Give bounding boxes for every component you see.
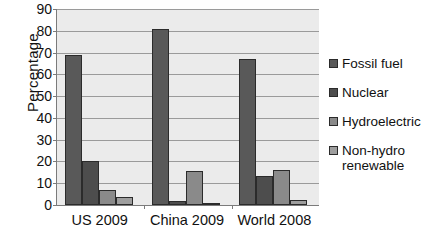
y-tick-label: 50 <box>26 91 52 101</box>
bar-group <box>65 9 133 205</box>
y-tick-label: 60 <box>26 69 52 79</box>
legend-label: Hydroelectric <box>342 114 421 129</box>
bar <box>82 161 99 205</box>
y-tick-label: 70 <box>26 48 52 58</box>
bar-group <box>152 9 220 205</box>
plot-area <box>56 9 319 206</box>
y-tick-label: 90 <box>26 4 52 14</box>
y-tick-label: 30 <box>26 135 52 145</box>
bar <box>203 203 220 205</box>
legend-swatch-icon <box>329 88 338 97</box>
bar <box>256 176 273 205</box>
bar <box>99 190 116 205</box>
y-tick-mark <box>53 205 57 206</box>
legend-item[interactable]: Nuclear <box>329 85 437 100</box>
legend-swatch-icon <box>329 59 338 68</box>
legend-swatch-icon <box>329 117 338 126</box>
legend-item[interactable]: Fossil fuel <box>329 56 437 71</box>
bar-series-container <box>57 9 319 205</box>
bar <box>273 170 290 205</box>
y-tick-label: 20 <box>26 156 52 166</box>
y-tick-label: 40 <box>26 113 52 123</box>
bar <box>152 29 169 205</box>
legend-label: Fossil fuel <box>342 56 403 71</box>
bar <box>290 200 307 205</box>
legend-label: Non-hydro renewable <box>342 143 437 173</box>
bar-chart: Percentage 9080706050403020100 US 2009Ch… <box>0 0 437 248</box>
legend-swatch-icon <box>329 146 338 155</box>
x-tick-mark <box>232 205 233 209</box>
legend-item[interactable]: Hydroelectric <box>329 114 437 129</box>
y-axis-tick-labels: 9080706050403020100 <box>26 9 52 205</box>
bar-group <box>239 9 307 205</box>
legend-item[interactable]: Non-hydro renewable <box>329 143 437 173</box>
bar <box>65 55 82 205</box>
x-tick-mark <box>144 205 145 209</box>
x-axis-category-labels: US 2009China 2009World 2008 <box>56 212 318 236</box>
y-tick-label: 80 <box>26 26 52 36</box>
bar <box>116 197 133 205</box>
bar <box>186 171 203 205</box>
bar <box>169 201 186 205</box>
y-tick-label: 0 <box>26 200 52 210</box>
chart-legend: Fossil fuelNuclearHydroelectricNon-hydro… <box>329 56 437 187</box>
x-category-label: World 2008 <box>231 212 318 228</box>
x-category-label: China 2009 <box>143 212 230 228</box>
x-category-label: US 2009 <box>56 212 143 228</box>
y-tick-label: 10 <box>26 178 52 188</box>
legend-label: Nuclear <box>342 85 389 100</box>
bar <box>239 59 256 205</box>
